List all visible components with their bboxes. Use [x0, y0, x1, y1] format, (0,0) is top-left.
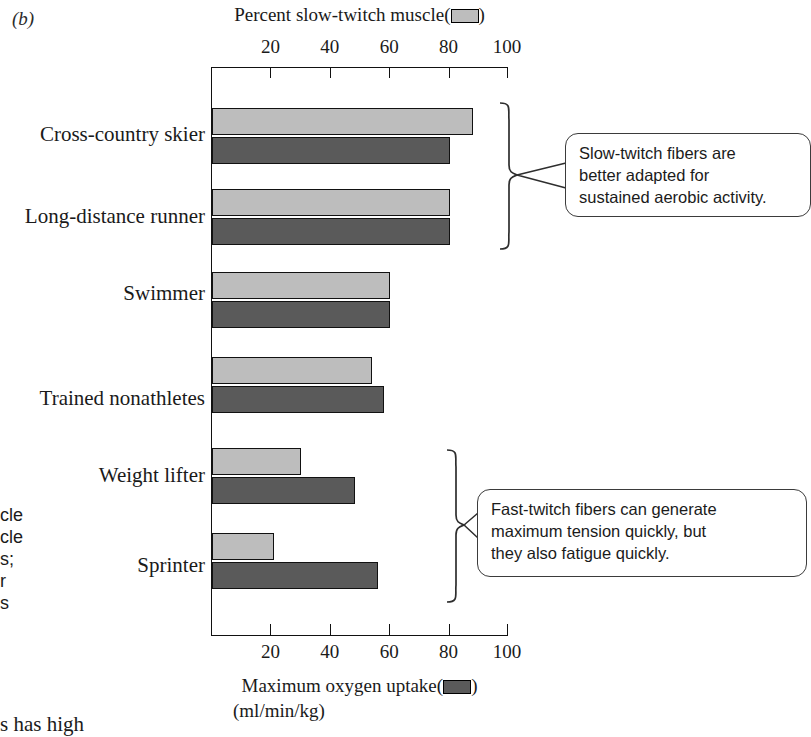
- callout-fast-twitch: Fast-twitch fibers can generate maximum …: [477, 489, 807, 577]
- bottom-tick-20: [270, 624, 271, 635]
- callout-fast-twitch-line-1: Fast-twitch fibers can generate: [491, 499, 794, 521]
- bottom-tick-label-20: 20: [261, 641, 280, 663]
- bottom-tick-60: [389, 624, 390, 635]
- category-label-trained-nonathletes: Trained nonathletes: [0, 386, 205, 411]
- top-tick-100: [507, 67, 508, 78]
- bar-slow-twitch-cross-country-skier: [212, 108, 473, 135]
- top-axis-title-text: Percent slow-twitch muscle: [234, 4, 444, 25]
- top-axis-line: [211, 67, 508, 68]
- bottom-axis-line: [211, 635, 508, 636]
- bar-slow-twitch-weight-lifter: [212, 448, 301, 475]
- callout-slow-twitch-line-1: Slow-twitch fibers are: [579, 143, 798, 165]
- category-labels: Cross-country skier Long-distance runner…: [0, 0, 205, 737]
- caption-fragment-1: cle: [0, 505, 23, 526]
- top-tick-label-100: 100: [493, 36, 522, 58]
- bar-oxygen-weight-lifter: [212, 477, 355, 504]
- top-tick-label-40: 40: [320, 36, 339, 58]
- category-label-weight-lifter: Weight lifter: [0, 463, 205, 488]
- callout-slow-twitch-line-3: sustained aerobic activity.: [579, 187, 798, 209]
- caption-fragment-4: r: [0, 571, 6, 592]
- dark-gray-swatch-icon: [443, 680, 471, 694]
- light-gray-swatch-icon: [451, 9, 479, 23]
- callout-fast-twitch-line-3: they also fatigue quickly.: [491, 543, 794, 565]
- bar-oxygen-swimmer: [212, 301, 390, 328]
- bottom-axis-units: (ml/min/kg): [233, 700, 325, 722]
- top-tick-60: [389, 67, 390, 78]
- bar-slow-twitch-long-distance-runner: [212, 189, 450, 216]
- caption-fragment-3: s;: [0, 549, 14, 570]
- category-label-long-distance-runner: Long-distance runner: [0, 204, 205, 229]
- category-label-swimmer: Swimmer: [0, 281, 205, 306]
- top-tick-80: [449, 67, 450, 78]
- category-label-sprinter: Sprinter: [0, 553, 205, 578]
- bar-oxygen-cross-country-skier: [212, 137, 450, 164]
- caption-fragment-bottom: s has high: [0, 712, 84, 737]
- callout-slow-twitch: Slow-twitch fibers are better adapted fo…: [565, 133, 811, 217]
- bottom-tick-80: [449, 624, 450, 635]
- bar-slow-twitch-swimmer: [212, 272, 390, 299]
- bottom-tick-label-60: 60: [380, 641, 399, 663]
- bar-slow-twitch-sprinter: [212, 533, 274, 560]
- category-label-cross-country-skier: Cross-country skier: [0, 122, 205, 147]
- top-axis-legend: (): [444, 4, 485, 26]
- bar-oxygen-sprinter: [212, 562, 378, 589]
- top-tick-20: [270, 67, 271, 78]
- plot-area: 20 40 60 80 100 20 40 60 80 100: [211, 67, 508, 635]
- bottom-axis-title: Maximum oxygen uptake (): [211, 675, 508, 697]
- caption-fragment-5: s: [0, 593, 9, 614]
- top-tick-label-80: 80: [439, 36, 458, 58]
- bar-oxygen-long-distance-runner: [212, 218, 450, 245]
- bar-slow-twitch-trained-nonathletes: [212, 357, 372, 384]
- bottom-tick-label-100: 100: [493, 641, 522, 663]
- bottom-axis-legend: (): [437, 675, 478, 697]
- top-tick-label-60: 60: [380, 36, 399, 58]
- top-axis-title: Percent slow-twitch muscle (): [211, 4, 508, 26]
- bottom-tick-label-80: 80: [439, 641, 458, 663]
- caption-fragment-2: cle: [0, 527, 23, 548]
- bar-oxygen-trained-nonathletes: [212, 386, 384, 413]
- top-tick-0: [211, 67, 212, 78]
- bottom-tick-40: [330, 624, 331, 635]
- bottom-tick-label-40: 40: [320, 641, 339, 663]
- callout-fast-twitch-line-2: maximum tension quickly, but: [491, 521, 794, 543]
- bottom-tick-0: [211, 624, 212, 635]
- top-tick-40: [330, 67, 331, 78]
- bottom-tick-100: [507, 624, 508, 635]
- top-tick-label-20: 20: [261, 36, 280, 58]
- bottom-axis-title-text: Maximum oxygen uptake: [242, 675, 437, 696]
- leader-slow-twitch: [517, 163, 566, 188]
- callout-slow-twitch-line-2: better adapted for: [579, 165, 798, 187]
